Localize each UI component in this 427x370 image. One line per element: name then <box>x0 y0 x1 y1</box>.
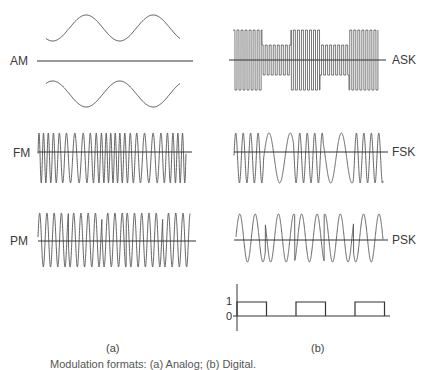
digital-bit-signal <box>233 284 390 331</box>
fm-waveform <box>38 133 192 183</box>
fsk-label: FSK <box>392 146 415 158</box>
level-one-tick: 1 <box>226 296 232 307</box>
am-waveform <box>37 15 193 107</box>
pm-waveform <box>38 213 196 267</box>
psk-waveform <box>234 214 388 262</box>
fm-label: FM <box>13 147 30 159</box>
ask-waveform <box>229 30 386 90</box>
level-zero-tick: 0 <box>226 311 232 322</box>
panel-a-label: (a) <box>106 343 119 354</box>
pm-label: PM <box>10 235 28 247</box>
am-label: AM <box>10 55 28 67</box>
fsk-waveform <box>234 133 388 183</box>
ask-label: ASK <box>392 54 416 66</box>
panel-b-label: (b) <box>311 343 324 354</box>
psk-label: PSK <box>392 234 416 246</box>
figure-caption: Modulation formats: (a) Analog; (b) Digi… <box>50 358 256 370</box>
